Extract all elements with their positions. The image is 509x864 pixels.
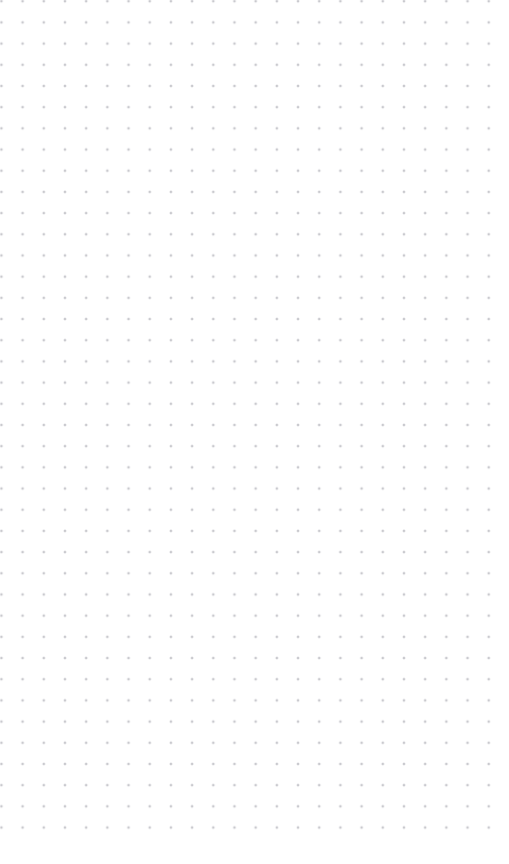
page-content-layer <box>0 0 509 864</box>
right-margin-area <box>498 0 509 864</box>
dot-grid-page <box>0 0 509 864</box>
dot-grid-canvas[interactable] <box>0 0 509 864</box>
bottom-margin-area <box>0 843 509 864</box>
